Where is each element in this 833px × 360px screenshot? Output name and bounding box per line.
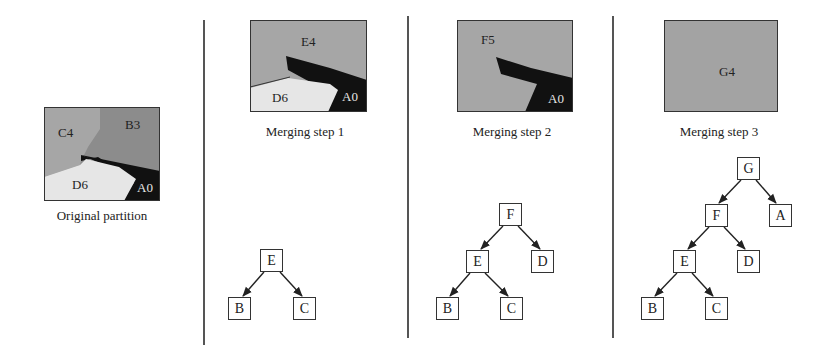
svg-text:D6: D6 xyxy=(272,90,288,105)
caption-merging-step-2: Merging step 2 xyxy=(473,124,551,140)
svg-text:G4: G4 xyxy=(719,64,735,79)
tree-node-a: A xyxy=(769,204,792,227)
divider-2 xyxy=(407,16,409,338)
tree-node-c: C xyxy=(705,297,728,320)
tree-node-c: C xyxy=(293,297,316,320)
tree-node-e: E xyxy=(260,249,283,272)
divider-1 xyxy=(203,20,205,345)
svg-text:E4: E4 xyxy=(301,34,316,49)
tree-node-f: F xyxy=(705,204,728,227)
original-partition-image: C4 B3 D6 A0 xyxy=(44,107,160,201)
tree-node-d: D xyxy=(531,250,554,273)
tree-node-c: C xyxy=(500,297,523,320)
tree-node-b: B xyxy=(436,297,459,320)
tree-node-e: E xyxy=(673,250,696,273)
tree-node-b: B xyxy=(228,297,251,320)
tree-node-b: B xyxy=(641,297,664,320)
tree-node-g: G xyxy=(737,157,760,180)
tree-node-d: D xyxy=(737,250,760,273)
tree-node-e: E xyxy=(466,250,489,273)
caption-merging-step-1: Merging step 1 xyxy=(266,124,344,140)
step2-partition-image: F5 A0 xyxy=(457,20,573,112)
svg-text:A0: A0 xyxy=(342,89,358,104)
divider-3 xyxy=(612,16,614,338)
step3-partition-image: G4 xyxy=(664,20,778,112)
svg-text:A0: A0 xyxy=(137,180,153,195)
svg-text:C4: C4 xyxy=(58,125,74,140)
caption-merging-step-3: Merging step 3 xyxy=(680,124,758,140)
svg-text:B3: B3 xyxy=(125,117,140,132)
step1-partition-image: E4 D6 A0 xyxy=(250,20,367,112)
svg-text:D6: D6 xyxy=(72,177,88,192)
caption-original-partition: Original partition xyxy=(57,208,148,224)
svg-text:A0: A0 xyxy=(548,91,564,106)
tree-node-f: F xyxy=(499,203,522,226)
svg-text:F5: F5 xyxy=(481,32,495,47)
